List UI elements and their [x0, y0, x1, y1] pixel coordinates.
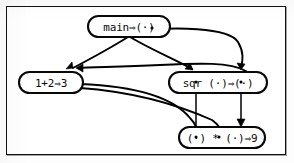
node-sqr[interactable]: sqr (·)⇒(·) — [169, 72, 267, 93]
node-sqr-label: sqr (·)⇒(·) — [183, 77, 254, 90]
node-main-result-port — [151, 27, 154, 30]
node-sum[interactable]: 1+2⇒3 — [19, 72, 83, 93]
node-sqr-result-port — [240, 81, 243, 84]
node-mul-left-port — [195, 136, 198, 139]
figure-canvas: main⇒(·) 1+2⇒3 sqr (·)⇒(·) (·) * (·)⇒9 — [0, 0, 294, 163]
node-mul[interactable]: (·) * (·)⇒9 — [179, 127, 265, 148]
arrowhead-sqr-result-to-mul — [237, 119, 245, 127]
node-main[interactable]: main⇒(·) — [88, 16, 170, 37]
node-mul-label: (·) * (·)⇒9 — [187, 132, 258, 145]
edge-main-to-sum — [73, 37, 128, 68]
node-sum-label: 1+2⇒3 — [35, 77, 67, 90]
arrowhead-main-to-sum — [66, 62, 73, 69]
edge-sqr-result-to-sum — [78, 64, 246, 71]
node-sqr-argument-port — [195, 81, 198, 84]
node-mul-right-port — [218, 136, 221, 139]
evaluation-graph: main⇒(·) 1+2⇒3 sqr (·)⇒(·) (·) * (·)⇒9 — [0, 0, 294, 163]
node-main-label: main⇒(·) — [103, 21, 154, 34]
